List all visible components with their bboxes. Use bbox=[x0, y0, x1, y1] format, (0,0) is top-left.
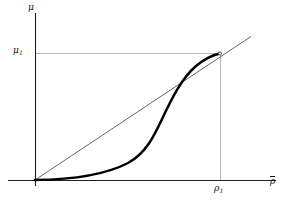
sigmoid-curve bbox=[35, 54, 220, 181]
plot-svg bbox=[0, 0, 283, 206]
figure-container: μ ρ μ1 ρ1 bbox=[0, 0, 283, 206]
x-tick-subscript: 1 bbox=[219, 187, 223, 194]
x-axis-label: ρ bbox=[270, 176, 275, 186]
x-axis-label-symbol: ρ bbox=[270, 176, 275, 186]
y-tick-subscript: 1 bbox=[19, 49, 23, 56]
diagonal-reference-line bbox=[35, 37, 251, 181]
y-axis-label: μ bbox=[28, 3, 34, 12]
x-tick-label-rho1: ρ1 bbox=[214, 184, 223, 193]
y-tick-symbol: μ bbox=[13, 45, 19, 55]
y-tick-label-mu1: μ1 bbox=[13, 46, 23, 55]
tangency-point-marker bbox=[218, 52, 221, 55]
